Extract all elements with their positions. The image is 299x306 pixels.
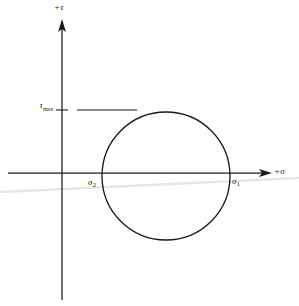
sigma2-label: σ2 <box>88 177 96 187</box>
tau-axis-label: +τ <box>54 2 64 12</box>
tau-max-subscript: max <box>43 106 53 112</box>
mohrs-circle-figure: +τ +σ σ2 σ1 τmax <box>0 0 299 306</box>
sigma1-label: σ1 <box>232 176 240 186</box>
sigma2-subscript: 2 <box>93 181 96 188</box>
sigma1-subscript: 1 <box>237 180 240 187</box>
scan-artifact-streak <box>0 178 299 192</box>
tau-max-label: τmax <box>8 100 53 110</box>
sigma1-symbol: σ <box>232 176 236 186</box>
mohrs-circle <box>102 112 230 240</box>
figure-canvas <box>0 0 299 306</box>
sigma-axis-label: +σ <box>274 166 285 176</box>
sigma2-symbol: σ <box>88 177 92 187</box>
